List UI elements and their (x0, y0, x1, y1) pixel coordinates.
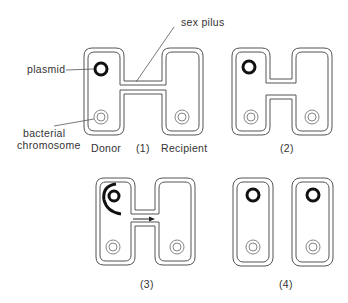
chromosome-icon (175, 110, 189, 124)
panel-1-outer-outline (84, 48, 203, 135)
plasmid-leader-line (66, 69, 94, 70)
plasmid-icon (243, 61, 255, 73)
transfer-arrow-icon (133, 217, 155, 222)
recipient-label: Recipient (161, 142, 207, 154)
panel-3-inner-outline (100, 182, 191, 261)
donor-label: Donor (91, 142, 121, 154)
panel-1-caption: (1) (136, 142, 150, 154)
chromosome-icon (305, 110, 319, 124)
panel-2-inner-outline (236, 52, 328, 131)
chromosome-icon (306, 240, 320, 254)
panel-4-right-cell-outer (292, 178, 333, 266)
sex-pilus-leader-line (136, 27, 174, 82)
panel-3: (3) (96, 178, 195, 290)
panel-1: plasmid sex pilus bacterial chromosome D… (17, 16, 225, 154)
panel-3-caption: (3) (140, 278, 154, 290)
chromosome-icon (246, 240, 260, 254)
chromosome-icon (170, 240, 184, 254)
panel-2: (2) (232, 48, 332, 154)
sex-pilus-label: sex pilus (181, 16, 225, 28)
panel-4-left-cell-inner (237, 182, 269, 262)
plasmid-icon (247, 189, 259, 201)
chromosome-icon (106, 240, 120, 254)
plasmid-label: plasmid (27, 63, 65, 75)
chromosome-icon (244, 110, 258, 124)
panel-4-left-cell-outer (233, 178, 273, 266)
chromosome-label-line2: chromosome (17, 139, 81, 151)
panel-4: (4) (233, 178, 333, 290)
panel-4-right-cell-inner (296, 182, 329, 262)
panel-4-caption: (4) (279, 278, 293, 290)
chromosome-label-line1: bacterial (23, 127, 65, 139)
panel-2-caption: (2) (280, 142, 294, 154)
plasmid-icon (307, 189, 319, 201)
plasmid-icon (95, 63, 107, 75)
plasmid-icon (109, 191, 119, 201)
conjugation-diagram: plasmid sex pilus bacterial chromosome D… (0, 0, 348, 303)
chromosome-icon (94, 110, 108, 124)
